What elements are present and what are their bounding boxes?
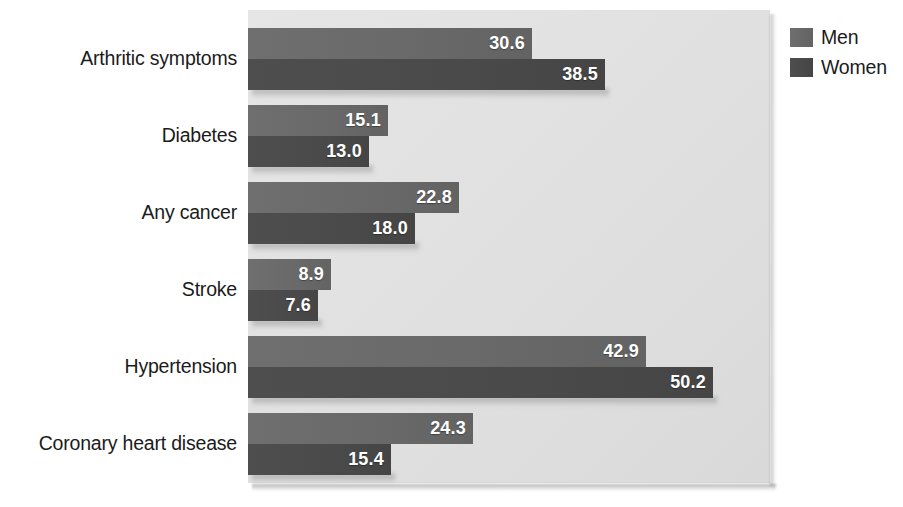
bar-men-arthritic-symptoms[interactable]: 30.6	[248, 28, 532, 59]
bar-value-label: 42.9	[603, 341, 646, 362]
legend-label-women: Women	[821, 56, 887, 79]
legend-label-men: Men	[821, 26, 858, 49]
legend-item-men[interactable]: Men	[790, 22, 887, 52]
bar-shadow	[252, 397, 717, 406]
bar-shadow	[252, 166, 373, 175]
bar-value-label: 18.0	[372, 218, 415, 239]
bar-shadow	[252, 474, 395, 483]
chart-root: 30.638.515.113.022.818.08.97.642.950.224…	[0, 0, 903, 507]
bar-value-label: 8.9	[298, 264, 331, 285]
category-label-stroke: Stroke	[182, 278, 237, 301]
bar-value-label: 15.1	[345, 110, 388, 131]
category-label-coronary-heart-disease: Coronary heart disease	[39, 432, 237, 455]
bar-shadow	[252, 89, 609, 98]
bar-women-any-cancer[interactable]: 18.0	[248, 213, 415, 244]
bar-men-hypertension[interactable]: 42.9	[248, 336, 646, 367]
legend-swatch-women-icon	[790, 58, 813, 77]
bar-value-label: 50.2	[670, 372, 713, 393]
bar-men-any-cancer[interactable]: 22.8	[248, 182, 459, 213]
bar-value-label: 24.3	[430, 418, 473, 439]
category-label-arthritic-symptoms: Arthritic symptoms	[80, 47, 237, 70]
bar-value-label: 30.6	[489, 33, 532, 54]
plot-area-shadow	[252, 484, 776, 491]
bar-value-label: 22.8	[416, 187, 459, 208]
bar-value-label: 15.4	[348, 449, 391, 470]
bar-value-label: 7.6	[285, 295, 318, 316]
category-label-any-cancer: Any cancer	[141, 201, 237, 224]
category-label-diabetes: Diabetes	[162, 124, 237, 147]
bar-shadow	[252, 243, 419, 252]
bar-women-stroke[interactable]: 7.6	[248, 290, 318, 321]
bar-value-label: 38.5	[562, 64, 605, 85]
bar-women-arthritic-symptoms[interactable]: 38.5	[248, 59, 605, 90]
legend-item-women[interactable]: Women	[790, 52, 887, 82]
bar-value-label: 13.0	[326, 141, 369, 162]
bar-shadow	[252, 320, 322, 329]
legend-swatch-men-icon	[790, 28, 813, 47]
bar-women-coronary-heart-disease[interactable]: 15.4	[248, 444, 391, 475]
bar-men-stroke[interactable]: 8.9	[248, 259, 331, 290]
category-label-hypertension: Hypertension	[125, 355, 238, 378]
bar-men-coronary-heart-disease[interactable]: 24.3	[248, 413, 473, 444]
bar-women-hypertension[interactable]: 50.2	[248, 367, 713, 398]
plot-area-shadow-right	[770, 14, 776, 486]
bar-women-diabetes[interactable]: 13.0	[248, 136, 369, 167]
chart-legend: Men Women	[790, 22, 887, 82]
bar-men-diabetes[interactable]: 15.1	[248, 105, 388, 136]
